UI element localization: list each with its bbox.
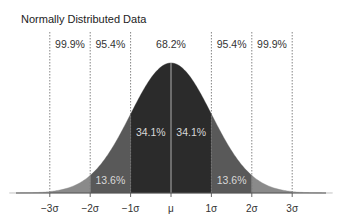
x-tick-label: −3σ	[41, 203, 59, 214]
normal-distribution-chart: −3σ−2σ−1σμ1σ2σ3σ 99.9%95.4%68.2%95.4%99.…	[0, 0, 342, 221]
top-percent-label: 68.2%	[156, 38, 186, 50]
region-area	[50, 175, 90, 193]
x-tick-label: −2σ	[81, 203, 99, 214]
top-percent-label: 95.4%	[96, 38, 126, 50]
x-tick-label: −1σ	[122, 203, 140, 214]
region-percent-label: 13.6%	[96, 174, 126, 186]
region-percent-label: 13.6%	[217, 174, 247, 186]
sigma-lines	[50, 32, 292, 193]
x-axis: −3σ−2σ−1σμ1σ2σ3σ	[16, 193, 326, 214]
region-percent-label: 34.1%	[136, 126, 166, 138]
x-tick-label: 3σ	[286, 203, 299, 214]
top-percent-label: 95.4%	[217, 38, 247, 50]
x-tick-label: μ	[168, 203, 174, 214]
x-tick-label: 1σ	[206, 203, 219, 214]
region-percent-label: 34.1%	[176, 126, 206, 138]
region-area	[252, 175, 292, 193]
x-tick-label: 2σ	[246, 203, 259, 214]
top-percent-label: 99.9%	[257, 38, 287, 50]
top-percent-label: 99.9%	[55, 38, 85, 50]
